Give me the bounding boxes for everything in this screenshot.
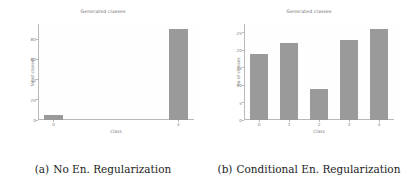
- axes-b: No of classes Class 051015202501234: [244, 24, 394, 120]
- y-tick-label: 20: [236, 48, 241, 53]
- x-tick-label: 0: [52, 122, 55, 127]
- bar-class-4: [370, 29, 389, 120]
- y-tick-label: 20: [30, 97, 35, 102]
- x-tick-label: 1: [288, 122, 291, 127]
- caption-b-text: Conditional En. Regularization: [236, 163, 400, 175]
- y-tick-mark: [242, 120, 244, 121]
- y-tick-mark: [242, 67, 244, 68]
- y-tick-label: 0: [33, 118, 36, 123]
- x-tick-label: 0: [258, 122, 261, 127]
- chart-title-a: Generated classes: [0, 9, 206, 14]
- y-axis-label-a: No of classes: [30, 58, 35, 87]
- caption-a-text: No En. Regularization: [53, 163, 171, 175]
- x-tick-mark: [259, 120, 260, 122]
- y-axis-line-b: [244, 24, 245, 120]
- y-tick-mark: [242, 32, 244, 33]
- x-tick-mark: [349, 120, 350, 122]
- figure-two-panel-bar-charts: Generated classes No of classes Class 02…: [0, 0, 412, 182]
- caption-a: (a)No En. Regularization: [0, 163, 206, 175]
- x-tick-mark: [289, 120, 290, 122]
- x-tick-mark: [178, 120, 179, 122]
- y-tick-mark: [242, 50, 244, 51]
- y-tick-mark: [36, 99, 38, 100]
- caption-a-tag: (a): [35, 163, 49, 175]
- panel-b: Generated classes No of classes Class 05…: [206, 0, 412, 182]
- chart-title-b: Generated classes: [206, 9, 412, 14]
- y-tick-label: 60: [30, 57, 35, 62]
- caption-b-tag: (b): [218, 163, 233, 175]
- caption-b: (b)Conditional En. Regularization: [206, 163, 412, 175]
- y-tick-label: 0: [239, 118, 242, 123]
- x-tick-mark: [53, 120, 54, 122]
- x-axis-label-a: Class: [110, 129, 122, 134]
- panel-a: Generated classes No of classes Class 02…: [0, 0, 206, 182]
- plot-area-b: Generated classes No of classes Class 05…: [206, 0, 412, 150]
- y-axis-line-a: [38, 24, 39, 120]
- x-tick-mark: [379, 120, 380, 122]
- y-tick-label: 40: [30, 77, 35, 82]
- bar-class-0: [250, 54, 269, 120]
- y-tick-mark: [36, 120, 38, 121]
- bar-class-1: [280, 43, 299, 120]
- x-tick-label: 3: [348, 122, 351, 127]
- y-tick-mark: [36, 39, 38, 40]
- x-tick-label: 2: [318, 122, 321, 127]
- y-tick-label: 5: [239, 100, 242, 105]
- y-tick-label: 15: [236, 65, 241, 70]
- plot-area-a: Generated classes No of classes Class 02…: [0, 0, 206, 150]
- x-axis-label-b: Class: [313, 129, 325, 134]
- y-tick-mark: [242, 102, 244, 103]
- y-tick-label: 25: [236, 30, 241, 35]
- bar-class-3: [340, 40, 359, 120]
- x-tick-label: 4: [378, 122, 381, 127]
- x-tick-label: 4: [177, 122, 180, 127]
- y-tick-mark: [36, 79, 38, 80]
- y-tick-label: 10: [236, 83, 241, 88]
- bar-class-2: [310, 89, 329, 120]
- axes-a: No of classes Class 02040608004: [38, 24, 194, 120]
- bar-class-4: [169, 29, 188, 120]
- y-tick-label: 80: [30, 37, 35, 42]
- y-tick-mark: [36, 59, 38, 60]
- x-tick-mark: [319, 120, 320, 122]
- y-tick-mark: [242, 85, 244, 86]
